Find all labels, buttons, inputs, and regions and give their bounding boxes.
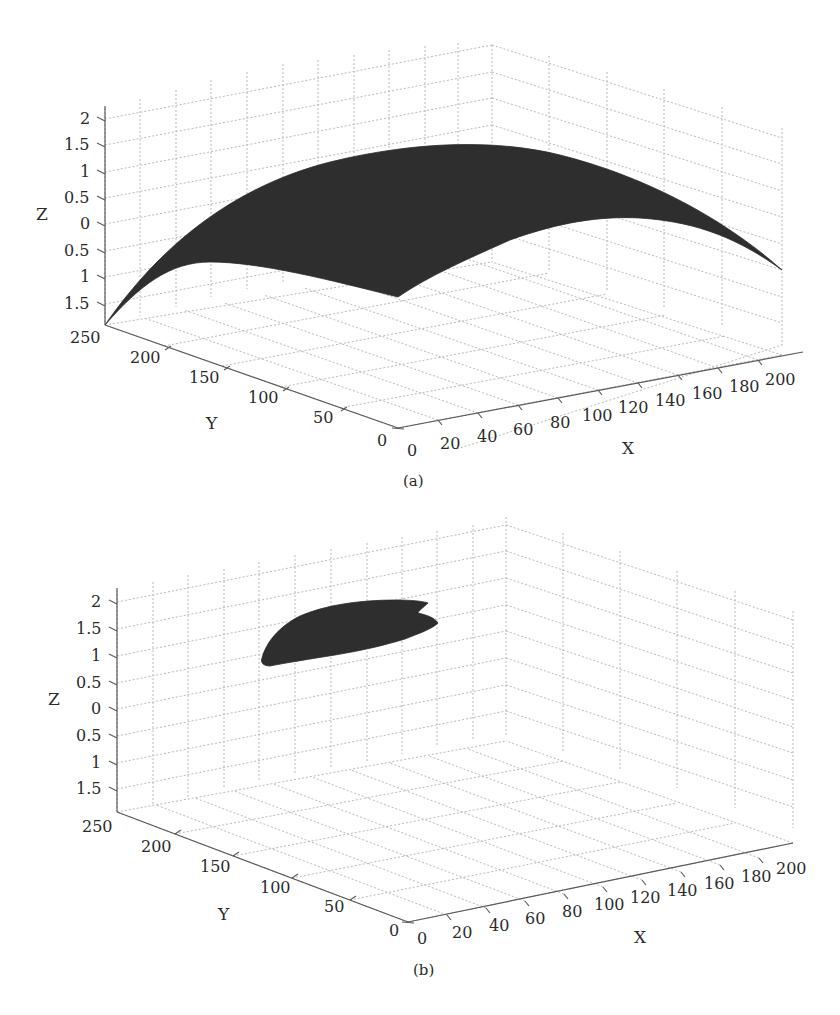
y-tick-label: 250 xyxy=(70,330,101,346)
x-tick-label: 120 xyxy=(630,890,661,906)
z-tick-label: 1.5 xyxy=(64,296,89,312)
surface-a xyxy=(105,145,782,325)
z-tick-label: 0.5 xyxy=(64,190,89,206)
z-tick-label: 2 xyxy=(91,594,101,610)
x-tick-label: 20 xyxy=(440,436,460,452)
x-axis-label: X xyxy=(622,440,634,457)
x-tick-label: 180 xyxy=(741,869,772,885)
z-tick-label: 0.5 xyxy=(64,243,89,259)
z-tick-label: 1 xyxy=(80,164,90,180)
x-tick-label: 100 xyxy=(594,897,625,913)
x-axis-label: X xyxy=(634,929,646,946)
z-tick-label: 1.5 xyxy=(76,781,101,797)
x-tick-label: 80 xyxy=(550,415,570,431)
z-tick-label: 0 xyxy=(80,216,90,232)
figure-panel-b: 2 1.5 1 0.5 0 0.5 1 1.5 Z 250 200 150 10… xyxy=(0,495,840,1015)
x-tick-label: 0 xyxy=(407,443,417,459)
y-tick-label: 100 xyxy=(248,390,279,406)
x-tick-label: 80 xyxy=(562,904,582,920)
y-axis-label: Y xyxy=(218,906,229,923)
z-tick-label: 1 xyxy=(91,648,101,664)
surface-b xyxy=(261,600,438,666)
x-tick-label: 200 xyxy=(776,861,807,877)
z-axis-label: Z xyxy=(48,691,60,708)
panel-caption: (a) xyxy=(403,474,424,489)
z-tick-label: 1 xyxy=(91,755,101,771)
z-axis-label: Z xyxy=(36,206,48,223)
plot-a-canvas xyxy=(0,0,840,495)
x-tick-label: 160 xyxy=(692,386,723,402)
x-tick-label: 180 xyxy=(729,379,760,395)
x-tick-label: 60 xyxy=(525,911,545,927)
y-tick-label: 50 xyxy=(313,410,333,426)
y-axis-label: Y xyxy=(206,415,217,432)
x-tick-label: 200 xyxy=(765,372,796,388)
z-tick-label: 1.5 xyxy=(64,137,89,153)
y-tick-label: 50 xyxy=(324,899,344,915)
x-tick-label: 140 xyxy=(655,393,686,409)
panel-caption: (b) xyxy=(413,963,434,978)
figure-panel-a: 2 1.5 1 0.5 0 0.5 1 1.5 Z 250 200 150 10… xyxy=(0,0,840,495)
z-tick-label: 1.5 xyxy=(76,621,101,637)
x-tick-label: 100 xyxy=(582,408,613,424)
x-tick-label: 60 xyxy=(513,422,533,438)
x-tick-label: 160 xyxy=(704,876,735,892)
y-tick-label: 200 xyxy=(141,839,172,855)
y-tick-label: 100 xyxy=(260,880,291,896)
z-tick-label: 0 xyxy=(91,701,101,717)
x-tick-label: 40 xyxy=(477,429,497,445)
x-tick-label: 120 xyxy=(618,400,649,416)
y-tick-label: 150 xyxy=(200,859,231,875)
x-tick-label: 20 xyxy=(452,925,472,941)
x-tick-label: 0 xyxy=(417,931,427,947)
x-tick-label: 140 xyxy=(667,883,698,899)
y-tick-label: 200 xyxy=(130,350,161,366)
y-tick-label: 0 xyxy=(389,923,399,939)
z-tick-label: 0.5 xyxy=(76,728,101,744)
y-tick-label: 250 xyxy=(82,819,113,835)
y-tick-label: 150 xyxy=(189,370,220,386)
z-tick-label: 2 xyxy=(80,111,90,127)
z-tick-label: 1 xyxy=(80,269,90,285)
y-tick-label: 0 xyxy=(377,433,387,449)
x-tick-label: 40 xyxy=(489,918,509,934)
z-tick-label: 0.5 xyxy=(76,675,101,691)
